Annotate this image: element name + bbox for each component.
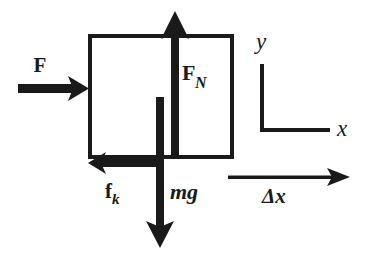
normal-force-label-main: F <box>182 60 195 85</box>
applied-force-vector <box>18 76 89 101</box>
axis-x-line <box>260 128 330 132</box>
axis-y-label: y <box>254 29 267 54</box>
weight-label: mg <box>170 179 198 204</box>
diagram-canvas: F F N mg f k <box>0 0 365 255</box>
displacement-vector <box>228 168 350 186</box>
normal-force-label: F N <box>182 60 208 91</box>
displacement-label: Δx <box>261 184 286 208</box>
coordinate-axes <box>260 64 330 132</box>
normal-force-vector <box>161 11 189 159</box>
weight-vector <box>146 97 174 248</box>
kinetic-friction-label-subscript: k <box>112 191 120 207</box>
kinetic-friction-label: f k <box>105 179 120 207</box>
displacement-shaft <box>228 176 334 180</box>
free-body-diagram: F F N mg f k <box>0 0 365 255</box>
applied-force-shaft <box>18 84 76 93</box>
axis-y-line <box>260 64 264 132</box>
axis-x-label: x <box>336 116 348 141</box>
kinetic-friction-shaft <box>99 159 161 167</box>
applied-force-label: F <box>34 53 47 77</box>
normal-force-shaft <box>171 20 179 159</box>
normal-force-label-subscript: N <box>194 74 208 91</box>
